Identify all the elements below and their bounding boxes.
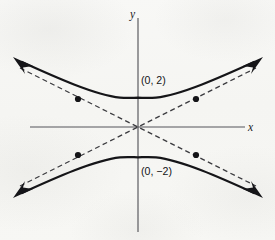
coordinate-plot: y x (0, 2) (0, −2) xyxy=(0,0,275,240)
upper-vertex-label: (0, 2) xyxy=(141,74,166,86)
arrowhead-lower-left xyxy=(13,181,33,198)
marked-point-upper-left xyxy=(75,96,81,102)
hyperbola-figure: y x (0, 2) (0, −2) xyxy=(0,0,275,240)
marked-point-lower-left xyxy=(75,152,81,158)
axes-group xyxy=(30,18,245,232)
arrowhead-upper-right xyxy=(243,57,263,74)
y-axis-label: y xyxy=(129,8,136,21)
arrowhead-lower-right xyxy=(243,181,263,198)
arrowhead-upper-left xyxy=(13,57,33,74)
marked-point-lower-right xyxy=(193,152,199,158)
marked-point-upper-right xyxy=(193,96,199,102)
lower-vertex-label: (0, −2) xyxy=(141,165,172,177)
x-axis-label: x xyxy=(247,121,254,133)
